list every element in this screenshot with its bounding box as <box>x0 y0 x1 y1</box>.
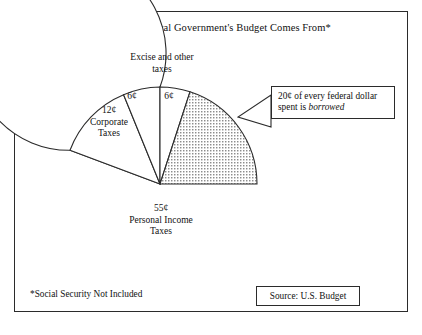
personal-value: 55¢ <box>154 203 168 213</box>
pie-label-personal-income-taxes: 55¢ Personal Income Taxes <box>95 203 227 238</box>
pie-chart <box>0 0 422 335</box>
pie-label-excise-left-value: 6¢ <box>120 91 144 103</box>
excise-heading-line2: taxes <box>152 64 172 74</box>
corporate-line2: Taxes <box>98 128 120 138</box>
callout-pointer <box>238 95 271 127</box>
pie-label-excise-heading: Excise and other taxes <box>106 52 218 75</box>
pie-label-corporate-taxes: 12¢ Corporate Taxes <box>71 105 147 140</box>
personal-line2: Taxes <box>150 226 172 236</box>
source-box: Source: U.S. Budget <box>256 286 360 306</box>
borrowed-callout-box: 20¢ of every federal dollar spent is bor… <box>271 86 395 119</box>
corporate-line1: Corporate <box>90 117 128 127</box>
pie-label-excise-right-value: 6¢ <box>157 91 181 103</box>
excise-heading-line1: Excise and other <box>130 52 193 62</box>
personal-line1: Personal Income <box>129 215 193 225</box>
callout-emphasis: borrowed <box>308 102 344 112</box>
corporate-value: 12¢ <box>102 105 116 115</box>
source-text: Source: U.S. Budget <box>270 291 346 301</box>
chart-footnote: *Social Security Not Included <box>30 289 142 299</box>
